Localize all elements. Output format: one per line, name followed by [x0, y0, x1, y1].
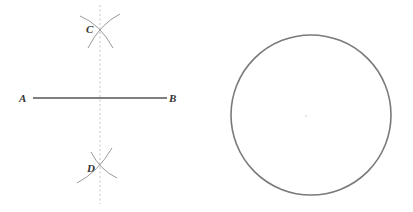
- label-c: C: [86, 23, 94, 35]
- arc-c-from-a: [80, 16, 113, 48]
- label-b: B: [168, 92, 176, 104]
- label-a: A: [18, 92, 26, 104]
- circle-center-mark: [305, 115, 307, 117]
- label-d: D: [86, 162, 95, 174]
- circle: [231, 35, 391, 195]
- diagram-canvas: A B C D: [0, 0, 413, 212]
